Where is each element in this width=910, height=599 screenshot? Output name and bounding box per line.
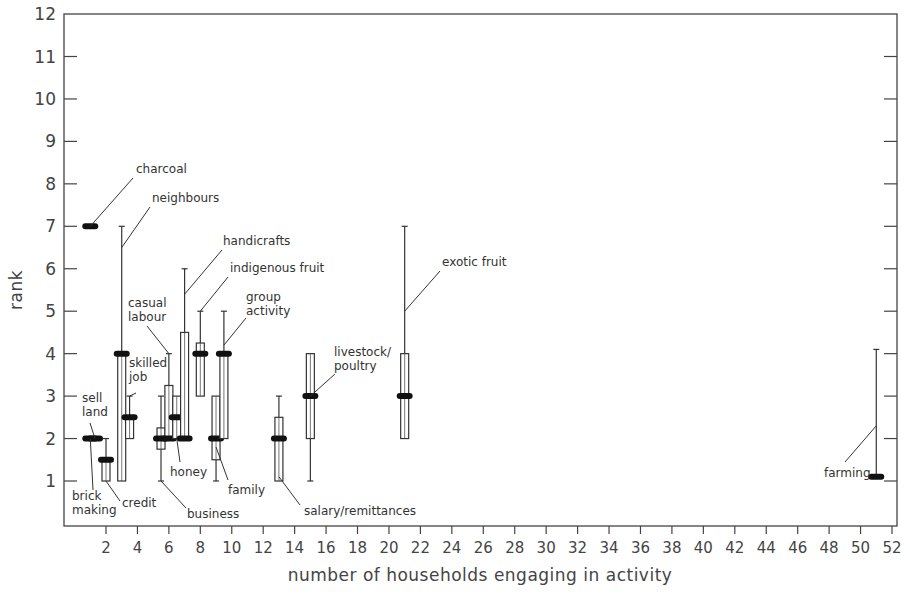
median-marker (868, 474, 884, 480)
x-tick-label: 28 (505, 539, 524, 557)
y-tick-label: 1 (45, 471, 56, 491)
y-tick-label: 12 (34, 4, 56, 24)
x-tick-label: 14 (285, 539, 304, 557)
annotation-label: group (246, 290, 281, 304)
x-tick-label: 36 (631, 539, 650, 557)
x-tick-label: 18 (348, 539, 367, 557)
annotation-label: skilled (129, 356, 167, 370)
annotation-label: land (82, 405, 108, 419)
x-tick-label: 40 (694, 539, 713, 557)
x-tick-label: 46 (788, 539, 807, 557)
x-tick-label: 12 (254, 539, 273, 557)
x-tick-label: 26 (474, 539, 493, 557)
annotation-label: charcoal (136, 162, 187, 176)
median-marker (98, 457, 114, 463)
annotation-label: family (228, 483, 265, 497)
leader-line (130, 393, 136, 396)
annotation-label: business (187, 507, 239, 521)
annotation-label: livestock/ (334, 345, 392, 359)
median-marker (192, 351, 208, 357)
x-tick-label: 38 (662, 539, 681, 557)
leader-line (122, 207, 150, 248)
leader-line (106, 481, 120, 501)
x-tick-label: 10 (222, 539, 241, 557)
annotation-label: casual (128, 296, 167, 310)
plot-frame (64, 14, 897, 526)
x-tick-label: 24 (442, 539, 461, 557)
x-tick-label: 44 (757, 539, 776, 557)
x-tick-label: 42 (725, 539, 744, 557)
box-livestock-poultry (302, 354, 318, 481)
y-tick-label: 4 (45, 344, 56, 364)
median-marker (114, 351, 130, 357)
median-marker (216, 351, 232, 357)
y-tick-label: 3 (45, 386, 56, 406)
annotation-label: salary/remittances (304, 504, 416, 518)
y-tick-label: 5 (45, 301, 56, 321)
y-tick-label: 11 (34, 47, 56, 67)
leader-line (185, 250, 222, 294)
annotation-label: poultry (334, 359, 377, 373)
leader-line (200, 277, 228, 311)
annotation-label: job (128, 370, 147, 384)
median-marker (122, 414, 138, 420)
x-tick-label: 22 (411, 539, 430, 557)
box-neighbours (114, 226, 130, 481)
y-tick-label: 9 (45, 131, 56, 151)
box-exotic-fruit (397, 226, 413, 438)
median-marker (177, 436, 193, 442)
leader-line (90, 439, 93, 490)
annotation-label: brick (72, 489, 101, 503)
box-farming (868, 349, 884, 479)
x-tick-label: 48 (820, 539, 839, 557)
x-tick-label: 4 (133, 539, 143, 557)
annotation-label: neighbours (152, 191, 219, 205)
annotation-label: indigenous fruit (230, 261, 325, 275)
leader-line (405, 271, 440, 311)
x-tick-label: 6 (164, 539, 174, 557)
boxplot-chart: 123456789101112 246810121416182022242628… (0, 0, 910, 599)
leader-line (845, 426, 876, 462)
box-salary-remittances (271, 396, 287, 481)
leader-line (90, 178, 133, 226)
y-axis: 123456789101112 (34, 4, 897, 491)
x-tick-label: 30 (537, 539, 556, 557)
box-indigenous-fruit (192, 311, 208, 396)
y-tick-label: 7 (45, 216, 56, 236)
leader-line (177, 439, 180, 462)
annotation-label: credit (122, 496, 157, 510)
x-tick-label: 52 (882, 539, 901, 557)
annotation-label: labour (128, 310, 166, 324)
median-marker (271, 436, 287, 442)
x-axis-title: number of households engaging in activit… (288, 565, 673, 585)
y-tick-label: 2 (45, 429, 56, 449)
box-credit (98, 439, 114, 481)
annotation-label: exotic fruit (442, 255, 507, 269)
y-tick-label: 10 (34, 89, 56, 109)
y-axis-title: rank (6, 270, 26, 310)
annotation-label: handicrafts (223, 234, 290, 248)
annotation-label: activity (246, 304, 290, 318)
x-tick-label: 50 (851, 539, 870, 557)
leader-line (224, 318, 246, 345)
y-tick-label: 6 (45, 259, 56, 279)
x-tick-label: 8 (196, 539, 206, 557)
annotation-label: farming (824, 466, 871, 480)
median-marker (397, 393, 413, 399)
leader-line (216, 447, 228, 480)
annotation-label: honey (170, 465, 207, 479)
annotations: brickmakingselllandcharcoalcreditneighbo… (72, 162, 876, 521)
annotation-label: sell (82, 391, 102, 405)
x-tick-label: 20 (379, 539, 398, 557)
leader-line (161, 481, 186, 508)
x-tick-label: 2 (101, 539, 111, 557)
x-tick-label: 34 (599, 539, 618, 557)
x-axis: 2468101214161820222426283032343638404244… (101, 526, 901, 557)
annotation-label: making (72, 503, 117, 517)
leader-line (279, 477, 300, 505)
x-tick-label: 32 (568, 539, 587, 557)
x-tick-label: 16 (317, 539, 336, 557)
y-tick-label: 8 (45, 174, 56, 194)
leader-line (147, 326, 169, 354)
